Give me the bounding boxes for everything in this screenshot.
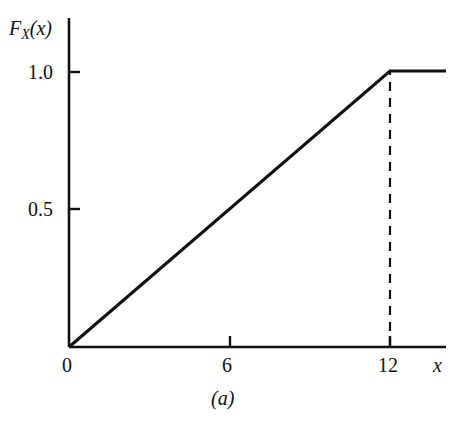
y-tick-label-0-5: 0.5 <box>28 199 53 219</box>
figure-caption: (a) <box>211 388 234 408</box>
y-tick-label-1-0: 1.0 <box>28 62 53 82</box>
figure-container: FX(x) 1.0 0.5 0 6 12 x (a) <box>0 0 468 422</box>
y-axis-title: FX(x) <box>9 18 52 42</box>
y-axis-title-argument: (x) <box>30 17 52 39</box>
cdf-curve <box>69 71 446 347</box>
x-tick-label-0: 0 <box>62 355 72 375</box>
x-axis-title: x <box>433 355 442 375</box>
x-tick-label-6: 6 <box>222 355 232 375</box>
y-axis-title-base: F <box>9 17 21 39</box>
y-axis-title-subscript: X <box>21 27 30 42</box>
x-tick-label-12: 12 <box>378 355 398 375</box>
